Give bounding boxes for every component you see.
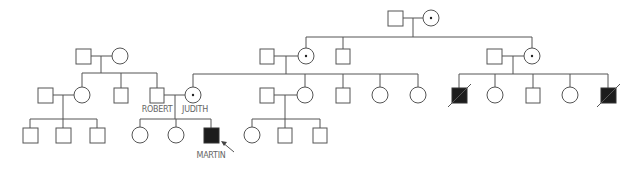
- male-symbol: [388, 11, 403, 26]
- male-symbol: [90, 128, 105, 143]
- female-symbol: [372, 87, 388, 103]
- male-symbol: [526, 88, 540, 103]
- generation-3-lines: [30, 95, 320, 128]
- male-symbol: [260, 88, 274, 103]
- male-symbol: [56, 128, 71, 143]
- male-symbol: [278, 128, 292, 143]
- female-symbol: [244, 127, 260, 143]
- label-judith: JUDITH: [181, 105, 208, 114]
- carrier-female-symbol: [298, 48, 314, 64]
- pedigree-chart: ROBERT JUDITH MARTIN: [0, 0, 631, 171]
- male-symbol: [23, 128, 38, 143]
- male-symbol: [336, 88, 350, 103]
- female-symbol: [487, 87, 503, 103]
- male-symbol: [336, 49, 350, 64]
- female-symbol: [112, 48, 128, 64]
- female-symbol: [410, 87, 426, 103]
- carrier-female-symbol-judith: [185, 87, 201, 103]
- male-symbol: [76, 49, 91, 64]
- carrier-female-symbol: [423, 10, 439, 26]
- male-symbol: [38, 88, 53, 103]
- affected-male-symbol-martin: [204, 128, 219, 143]
- female-symbol: [562, 87, 578, 103]
- male-symbol: [313, 128, 327, 143]
- carrier-female-symbol: [524, 48, 540, 64]
- label-robert: ROBERT: [142, 105, 173, 114]
- male-symbol-robert: [150, 88, 164, 103]
- male-symbol: [487, 49, 502, 64]
- male-symbol: [260, 49, 274, 64]
- male-symbol: [114, 88, 128, 103]
- female-symbol: [132, 127, 148, 143]
- generation-1-lines: [306, 18, 532, 49]
- female-symbol: [297, 87, 313, 103]
- label-martin: MARTIN: [197, 151, 226, 160]
- female-symbol: [74, 87, 90, 103]
- female-symbol: [168, 127, 184, 143]
